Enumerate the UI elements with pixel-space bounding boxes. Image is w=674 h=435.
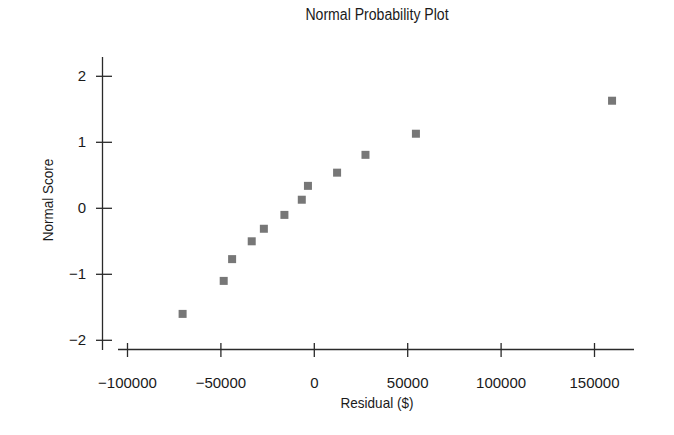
data-point-marker <box>298 196 306 204</box>
data-point-marker <box>280 211 288 219</box>
data-point-marker <box>220 277 228 285</box>
y-tick-label: 2 <box>78 67 86 84</box>
x-tick-label: 100000 <box>476 374 526 391</box>
x-tick-label: −100000 <box>98 374 157 391</box>
data-point-marker <box>412 130 420 138</box>
data-point-marker <box>228 255 236 263</box>
y-tick-label: 1 <box>78 133 86 150</box>
plot-area: −2−1012−100000−50000050000100000150000 <box>0 0 674 435</box>
data-point-marker <box>248 237 256 245</box>
x-tick-label: −50000 <box>196 374 246 391</box>
x-tick-label: 50000 <box>387 374 429 391</box>
data-point-marker <box>304 182 312 190</box>
data-point-marker <box>333 169 341 177</box>
y-tick-label: 0 <box>78 199 86 216</box>
data-point-marker <box>260 225 268 233</box>
data-point-marker <box>608 97 616 105</box>
data-point-marker <box>361 151 369 159</box>
y-tick-label: −2 <box>69 331 86 348</box>
x-tick-label: 150000 <box>569 374 619 391</box>
x-tick-label: 0 <box>310 374 318 391</box>
y-tick-label: −1 <box>69 265 86 282</box>
data-point-marker <box>179 310 187 318</box>
